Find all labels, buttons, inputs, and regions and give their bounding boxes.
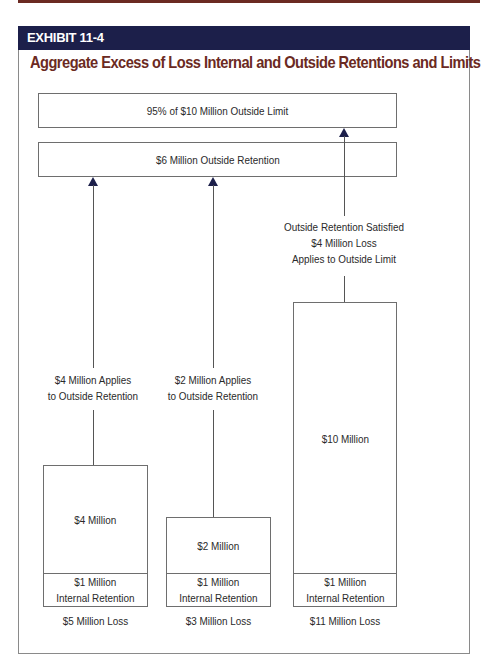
outside-retention-label: $6 Million Outside Retention (156, 152, 280, 168)
connector-line (344, 276, 345, 302)
connector-line (344, 136, 345, 216)
total-loss-label: $5 Million Loss (48, 613, 143, 629)
excess-amount: $10 Million (321, 431, 368, 447)
outside-limit-box: 95% of $10 Million Outside Limit (38, 93, 397, 128)
excess-amount: $2 Million (198, 538, 240, 554)
connector-line (213, 185, 214, 368)
connector-line (213, 410, 214, 517)
connector-line (93, 185, 94, 368)
loss-bar-3m: $2 Million $1 Million Internal Retention (166, 517, 271, 607)
exhibit-label: EXHIBIT 11-4 (18, 26, 470, 50)
loss-bar-11m: $10 Million $1 Million Internal Retentio… (293, 302, 397, 607)
excess-amount: $4 Million (75, 512, 117, 528)
column-2-annotation: $2 Million Applies to Outside Retention (158, 372, 268, 404)
column-3-annotation: Outside Retention Satisfied $4 Million L… (274, 219, 414, 267)
top-decorative-band (18, 0, 480, 3)
total-loss-label: $3 Million Loss (171, 613, 266, 629)
total-loss-label: $11 Million Loss (298, 613, 392, 629)
column-1-annotation: $4 Million Applies to Outside Retention (38, 372, 148, 404)
outside-limit-label: 95% of $10 Million Outside Limit (147, 103, 288, 119)
exhibit-title: Aggregate Excess of Loss Internal and Ou… (30, 52, 480, 74)
loss-bar-5m: $4 Million $1 Million Internal Retention (43, 465, 148, 607)
connector-line (93, 410, 94, 465)
